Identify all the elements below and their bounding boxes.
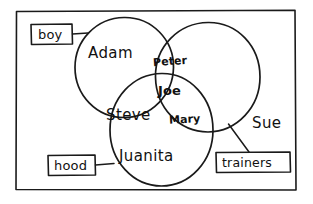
hood-tag-connector (96, 164, 115, 166)
venn-diagram-canvas: Adam Peter Joe Steve Mary Juanita Sue bo… (0, 0, 313, 204)
boy-tag-connector (73, 33, 89, 34)
member-label-steve: Steve (106, 106, 151, 124)
boy-tag-label: boy (38, 27, 63, 42)
trainers-tag-connector (229, 124, 250, 152)
member-label-mary: Mary (169, 112, 201, 127)
member-label-joe: Joe (158, 83, 181, 98)
member-label-juanita: Juanita (119, 147, 174, 165)
member-label-adam: Adam (88, 44, 133, 62)
trainers-tag-label: trainers (222, 155, 272, 170)
member-label-peter: Peter (153, 54, 188, 69)
member-label-sue: Sue (252, 114, 281, 132)
hood-tag-label: hood (54, 158, 87, 173)
